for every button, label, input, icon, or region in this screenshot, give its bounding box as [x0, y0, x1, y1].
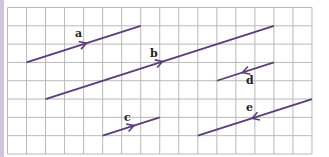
grid [8, 8, 312, 154]
vector-c [103, 117, 160, 135]
vector-label-e: e [246, 101, 253, 114]
vector-label-a: a [75, 27, 82, 40]
vector-label-c: c [124, 111, 131, 124]
vector-label-d: d [246, 74, 254, 87]
vector-label-b: b [150, 47, 158, 60]
vector-grid-diagram: abcde [0, 0, 329, 157]
